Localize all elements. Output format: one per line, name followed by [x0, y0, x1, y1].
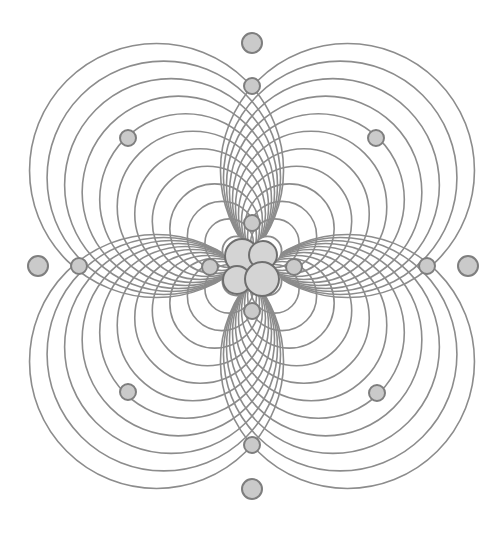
diagonal-dot-top-right	[368, 130, 384, 146]
axis-dot-right-outer	[458, 256, 478, 276]
axis-dot-left-inner	[71, 258, 87, 274]
satellite-dot-right	[286, 259, 302, 275]
core-circle-3	[245, 262, 279, 296]
axis-dot-left-outer	[28, 256, 48, 276]
diagonal-dot-bottom-right	[369, 385, 385, 401]
axis-dot-top-outer	[242, 33, 262, 53]
axis-dot-top-inner	[244, 78, 260, 94]
axis-dot-bottom-inner	[244, 437, 260, 453]
satellite-dot-bottom	[244, 303, 260, 319]
central-core-cluster	[223, 239, 279, 296]
diagonal-dot-top-left	[120, 130, 136, 146]
axis-dot-right-inner	[419, 258, 435, 274]
axis-dot-bottom-outer	[242, 479, 262, 499]
diagonal-dot-bottom-left	[120, 384, 136, 400]
concentric-lobe-diagram	[0, 0, 504, 538]
satellite-dot-left	[202, 259, 218, 275]
satellite-dot-top	[244, 215, 260, 231]
